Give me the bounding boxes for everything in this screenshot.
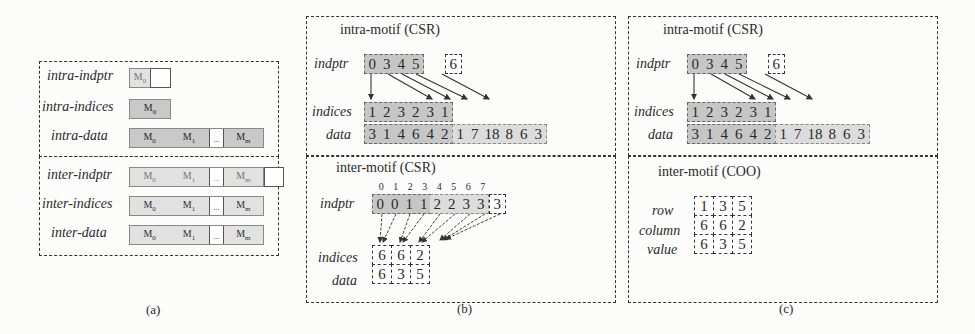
pointer-arrows: [0, 0, 975, 334]
